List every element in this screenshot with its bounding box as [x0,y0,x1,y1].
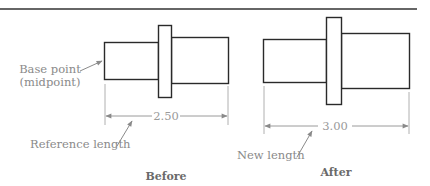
before-left-shaft [105,43,159,80]
before-right-shaft [172,38,229,84]
after-collar [327,18,342,105]
before-caption: Before [145,170,186,183]
after-left-shaft [264,40,327,83]
new-length-callout: New length [237,131,312,162]
after-caption: After [320,166,352,179]
reference-length-callout: Reference length [30,121,132,151]
after-dimension-value: 3.00 [322,119,348,133]
scale-diagram: 2.50 Base point (midpoint) Reference len… [0,0,430,186]
reference-length-label: Reference length [30,137,131,151]
midpoint-label: (midpoint) [20,75,81,89]
base-point-label: Base point [19,62,81,76]
after-part-drawing [264,18,410,105]
new-length-label: New length [237,148,305,162]
before-part-drawing [105,26,229,98]
before-collar [159,26,172,98]
before-dimension-value: 2.50 [153,109,179,123]
after-right-shaft [342,34,410,89]
base-point-callout: Base point (midpoint) [19,61,102,89]
base-point-arrow-icon [80,61,102,71]
